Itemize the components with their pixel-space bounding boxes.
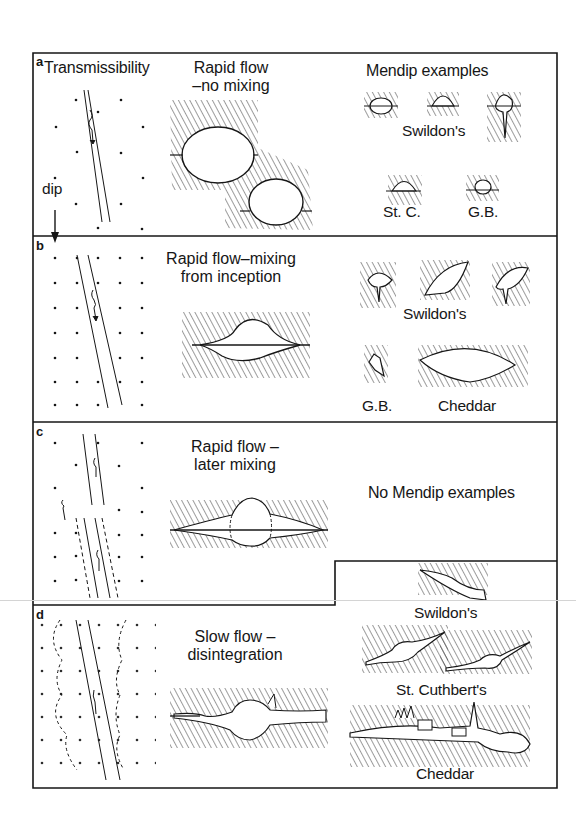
panel-b-title-line1: Rapid flow–mixing [166, 250, 296, 268]
panel-b-title: Rapid flow–mixing from inception [166, 250, 296, 286]
example-label-b-cheddar: Cheddar [438, 397, 496, 414]
panel-letter-d: d [36, 608, 44, 621]
example-label-d-st-cuthberts: St. Cuthbert's [396, 681, 487, 698]
panel-letter-a: a [36, 55, 43, 68]
panel-d-title-line2: disintegration [180, 646, 290, 664]
example-label-b-swildons: Swildon's [403, 305, 466, 322]
panel-d-title-line1: Slow flow – [180, 628, 290, 646]
panel-c-title: Rapid flow – later mixing [180, 438, 290, 474]
dot-grid-b [54, 257, 144, 407]
example-label-a-gb: G.B. [468, 203, 498, 220]
conduit-diagram-b [77, 255, 122, 408]
mendip-examples-a [364, 92, 521, 205]
dot-grid-a [54, 99, 145, 231]
example-label-d-cheddar: Cheddar [416, 765, 474, 782]
panel-c-title-line1: Rapid flow – [180, 438, 290, 456]
scan-artifact-line [0, 600, 576, 601]
mendip-examples-d [350, 563, 532, 767]
conduit-diagram-a [84, 90, 110, 222]
conduit-diagram-c [62, 434, 118, 598]
panel-a-title-line1: Rapid flow [176, 59, 286, 77]
cave-development-figure: a Transmissibility dip Rapid flow –no mi… [0, 0, 576, 822]
panel-a-title: Rapid flow –no mixing [176, 59, 286, 95]
cave-section-d-main [170, 688, 328, 748]
example-label-a-st-c: St. C. [383, 203, 421, 220]
example-label-d-swildons: Swildon's [414, 604, 477, 621]
panel-d-artwork [36, 563, 532, 784]
example-label-b-gb: G.B. [362, 397, 392, 414]
cave-section-a-main [170, 100, 313, 230]
panel-d-title: Slow flow – disintegration [180, 628, 290, 664]
panel-c-title-line2: later mixing [180, 456, 290, 474]
dot-grid-d [36, 612, 156, 784]
transmissibility-label: Transmissibility [44, 59, 150, 76]
panel-a-title-line2: –no mixing [176, 77, 286, 95]
panel-a-artwork [51, 90, 521, 243]
panel-letter-c: c [36, 425, 43, 438]
cave-section-b-main [182, 312, 310, 378]
mendip-examples-heading: Mendip examples [366, 62, 488, 79]
panel-b-title-line2: from inception [166, 268, 296, 286]
example-label-a-swildons: Swildon's [402, 122, 465, 139]
no-mendip-examples-text: No Mendip examples [368, 484, 515, 501]
dip-arrow-icon [51, 210, 59, 243]
cave-section-c-main [170, 498, 328, 548]
mendip-examples-b [360, 260, 530, 387]
dip-label: dip [42, 180, 62, 197]
panel-letter-b: b [36, 239, 44, 252]
